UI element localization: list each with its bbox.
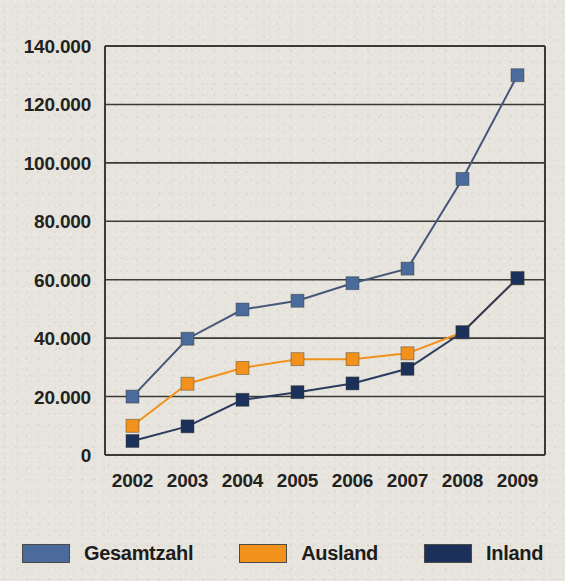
series-line-ausland (133, 278, 518, 426)
legend-item-gesamtzahl[interactable]: Gesamtzahl (22, 542, 193, 565)
y-axis-tick-label: 80.000 (34, 211, 91, 232)
legend-label-gesamtzahl: Gesamtzahl (84, 542, 193, 565)
y-axis-tick-label: 40.000 (34, 328, 91, 349)
legend-swatch-ausland (239, 544, 287, 563)
data-point-marker (236, 393, 249, 406)
y-axis-tick-label: 60.000 (34, 270, 91, 291)
data-point-marker (346, 277, 359, 290)
x-axis-tick-label: 2006 (332, 470, 373, 491)
x-axis-tick-label: 2008 (442, 470, 483, 491)
data-point-marker (181, 332, 194, 345)
chart-legend: Gesamtzahl Ausland Inland (0, 534, 565, 572)
legend-item-ausland[interactable]: Ausland (239, 542, 378, 565)
legend-swatch-gesamtzahl (22, 544, 70, 563)
y-axis-tick-label: 0 (81, 445, 91, 466)
x-axis-tick-label: 2007 (387, 470, 428, 491)
x-axis-tick-label: 2003 (167, 470, 208, 491)
data-point-marker (291, 294, 304, 307)
line-chart: 020.00040.00060.00080.000100.000120.0001… (0, 0, 565, 581)
data-point-marker (291, 353, 304, 366)
y-axis-tick-label: 20.000 (34, 387, 91, 408)
data-point-marker (126, 419, 139, 432)
data-point-marker (401, 347, 414, 360)
legend-label-inland: Inland (486, 542, 543, 565)
data-point-marker (236, 361, 249, 374)
data-point-marker (236, 303, 249, 316)
legend-swatch-inland (424, 544, 472, 563)
y-axis-tick-label: 140.000 (24, 36, 91, 57)
data-point-marker (346, 353, 359, 366)
data-point-marker (346, 377, 359, 390)
y-axis-tick-label: 100.000 (24, 153, 91, 174)
x-axis-tick-label: 2009 (497, 470, 538, 491)
data-point-marker (456, 172, 469, 185)
data-point-marker (401, 262, 414, 275)
x-axis-tick-label: 2005 (277, 470, 319, 491)
data-point-marker (181, 377, 194, 390)
data-point-marker (181, 420, 194, 433)
data-point-marker (511, 272, 524, 285)
data-point-marker (126, 390, 139, 403)
x-axis-tick-label: 2002 (112, 470, 153, 491)
legend-label-ausland: Ausland (301, 542, 378, 565)
data-point-marker (291, 386, 304, 399)
data-point-marker (126, 434, 139, 447)
series-line-gesamtzahl (133, 75, 518, 396)
data-point-marker (456, 326, 469, 339)
data-point-marker (511, 69, 524, 82)
x-axis-tick-label: 2004 (222, 470, 264, 491)
y-axis-tick-label: 120.000 (24, 94, 91, 115)
chart-plot-area: 020.00040.00060.00080.000100.000120.0001… (0, 0, 565, 581)
legend-item-inland[interactable]: Inland (424, 542, 543, 565)
data-point-marker (401, 362, 414, 375)
